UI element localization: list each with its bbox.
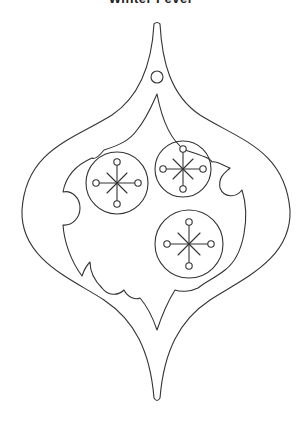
snowflake-medallion-top-right bbox=[155, 141, 211, 197]
snowflake-medallion-bottom-right bbox=[155, 210, 223, 278]
snowflake-medallion-left bbox=[86, 152, 148, 214]
ornament-drawing bbox=[0, 0, 302, 434]
ornament-outer-outline bbox=[22, 23, 290, 401]
hanging-hole bbox=[151, 71, 163, 83]
